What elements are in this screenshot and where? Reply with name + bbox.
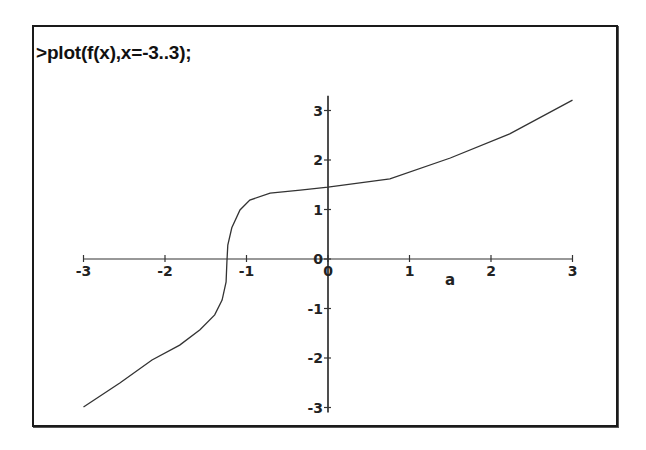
x-tick-label: -3 (76, 263, 92, 279)
y-tick-label: 2 (313, 152, 323, 168)
y-tick-label: -2 (307, 350, 323, 366)
x-tick-label: 0 (323, 263, 333, 279)
x-tick-label: 1 (405, 263, 415, 279)
y-tick-label: -1 (307, 301, 323, 317)
x-tick-label: 2 (486, 263, 496, 279)
x-axis-label: a (445, 271, 455, 289)
y-tick-label: 3 (313, 103, 323, 119)
plot-area: -3-2-10123-3-2-10123 a (0, 0, 646, 450)
y-tick-label: -3 (307, 400, 323, 416)
y-tick-label: 0 (313, 251, 323, 267)
x-tick-label: -1 (239, 263, 255, 279)
x-tick-label: 3 (568, 263, 578, 279)
x-tick-label: -2 (157, 263, 173, 279)
y-tick-label: 1 (313, 202, 323, 218)
axes (84, 96, 573, 413)
